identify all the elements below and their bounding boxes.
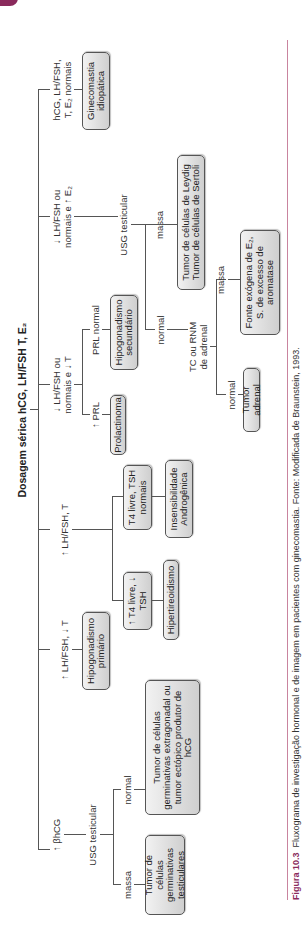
b3-line (72, 529, 112, 530)
b5-adr-normal-label: normal (227, 380, 237, 409)
b4-left-drop (82, 414, 90, 415)
b5-massa-line (145, 224, 177, 225)
caption-divider (287, 40, 288, 900)
b1-normal-drop (113, 789, 121, 790)
b3-left-line (152, 600, 163, 601)
b1-massa-drop (113, 884, 121, 885)
box-prolactinoma: Prolactinoma (110, 395, 126, 455)
b3-right-line (152, 496, 165, 497)
b4-line (74, 384, 82, 385)
main-trunk-line (38, 90, 39, 850)
b5-line (74, 216, 118, 217)
b6-condition-line2: T, E₂ normais (63, 62, 73, 118)
b5-normal-line (167, 329, 188, 330)
b1-condition: ↑ βhCG (52, 819, 62, 851)
branch6-drop (38, 89, 50, 90)
b3-right-drop (112, 496, 123, 497)
box-hipogonadismo-secundario: Hipogonadismo secundário (110, 295, 138, 370)
caption-text: Fluxograma de investigação hormonal e de… (291, 347, 301, 847)
b4-left-line (102, 414, 110, 415)
b5-condition-line2: normais e ↑ E₂ (63, 186, 73, 248)
figure-label: Figura 10.3 (291, 852, 301, 900)
b1-normal-label: normal (123, 775, 133, 804)
box-t4-livre-tsh-baixo: ↑ T4 livre, ↓ TSH (123, 572, 152, 630)
b4-right-line (102, 329, 110, 330)
box-insensibilidade-androgenica: Insensibilidade Androgênica (165, 460, 193, 538)
b5-massa-label: massa (155, 211, 165, 239)
flowchart-title: Dosagem sérica hCG, LH/FSH T, E₂ (16, 322, 28, 497)
branch4-drop (38, 384, 50, 385)
b4-right-drop (82, 329, 90, 330)
box-hipogonadismo-primario: Hipogonadismo primário (82, 612, 110, 690)
title-connector (30, 409, 38, 410)
branch2-drop (38, 649, 50, 650)
b6-line (74, 89, 82, 90)
b5-condition-line1: ↓ LH/FSH ou (52, 190, 62, 244)
b4-prl-normal-label: PRL normal (91, 305, 101, 355)
box-tumor-germinativas-testiculares: Tumor de células germinativas testicular… (145, 835, 185, 915)
b3-split (112, 497, 113, 601)
box-ginecomastia-idiopatica: Ginecomastia idiopática (82, 52, 110, 130)
b1-step: USG testicular (88, 804, 98, 865)
b5-normal-label: normal (156, 315, 166, 344)
figure-caption: Figura 10.3 Fluxograma de investigação h… (291, 347, 301, 900)
b5-adr-normal-drop (216, 394, 226, 395)
b5-normal-drop (145, 329, 155, 330)
b3-condition: ↑ LH/FSH, T (60, 504, 70, 556)
b5-adr-split (216, 280, 217, 395)
b1-normal-line (134, 789, 145, 790)
b5-step2-line1: TC ou RNM (188, 322, 198, 372)
b4-condition-line2: normais e ↓ T (63, 356, 73, 413)
b4-condition-line1: ↓ LH/FSH ou (52, 358, 62, 412)
b4-split (82, 330, 83, 415)
box-tumor-adrenal: Tumor adrenal (243, 368, 260, 432)
b1-split (113, 790, 114, 885)
branch1-drop (38, 849, 50, 850)
box-tumor-leydig-sertoli: Tumor de células de Leydig Tumor de célu… (177, 155, 205, 290)
b6-condition-line1: hCG, LH/FSH, (52, 59, 62, 120)
b2-condition: ↑ LH/FSH, ↓ T (60, 620, 70, 679)
b5-step: USG testicular (119, 194, 129, 255)
box-t4-tsh-normais: T4 livre, TSH normais (123, 465, 152, 530)
b5-adr-massa-line (228, 279, 240, 280)
b1-line (64, 834, 86, 835)
b5-step2-line2: de adrenal (199, 325, 209, 370)
box-tumor-germinativas-extragonadal: Tumor de células germinativas extragonad… (145, 680, 200, 815)
b3-left-drop (112, 600, 123, 601)
b5-split (145, 225, 146, 330)
b4-prl-up-label: ↑ PRL (91, 402, 101, 428)
b1-massa-label: massa (123, 871, 133, 899)
branch5-drop (38, 216, 50, 217)
b1-step-line (100, 834, 113, 835)
rotated-figure: Dosagem sérica hCG, LH/FSH T, E₂ ↑ βhCG … (0, 0, 304, 952)
b2-line (72, 649, 82, 650)
branch3-drop (38, 529, 50, 530)
box-hipertireoidismo: Hipertireoidismo (163, 560, 179, 640)
b5-adr-massa-label: massa (216, 266, 226, 294)
b5-step-line (131, 224, 145, 225)
box-fonte-exogena-aromatase: Fonte exógena de E₂, S. de excesso de ar… (240, 230, 280, 335)
